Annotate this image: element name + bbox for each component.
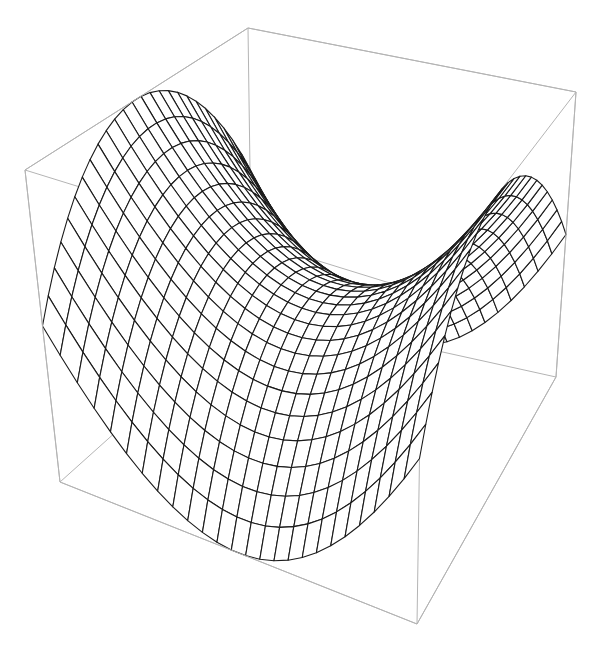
- saddle-surface-mesh: [43, 91, 567, 561]
- box-edge: [248, 28, 576, 92]
- box-edge: [417, 377, 556, 624]
- saddle-surface-plot: [0, 0, 592, 652]
